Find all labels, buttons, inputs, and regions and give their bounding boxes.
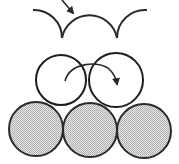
surface-arc-middle bbox=[62, 15, 117, 38]
base-sphere-middle bbox=[63, 103, 117, 157]
upper-sphere-left bbox=[36, 55, 86, 105]
base-layer bbox=[9, 102, 171, 158]
surface-arc-right bbox=[117, 10, 147, 38]
base-sphere-left bbox=[9, 102, 63, 156]
second-layer bbox=[36, 53, 143, 107]
surface-profile bbox=[33, 0, 147, 38]
base-sphere-right bbox=[117, 104, 171, 158]
sphere-packing-diagram bbox=[0, 0, 179, 164]
incoming-arrow-icon bbox=[62, 0, 73, 13]
rolling-arrow-icon bbox=[65, 64, 117, 84]
surface-arc-left bbox=[33, 10, 62, 38]
